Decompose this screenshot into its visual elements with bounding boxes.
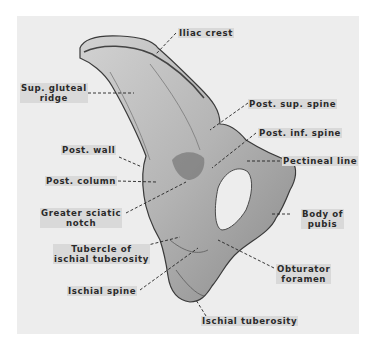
- label-post-wall: Post. wall: [61, 145, 116, 155]
- label-post-inf-spine: Post. inf. spine: [258, 128, 342, 138]
- label-sup-gluteal-ridge: Sup. gluteal ridge: [20, 83, 88, 103]
- label-ischial-spine: Ischial spine: [67, 286, 137, 296]
- label-tubercle-line2: ischial tuberosity: [54, 254, 149, 264]
- label-tubercle-of-ischial-tuberosity: Tubercle of ischial tuberosity: [53, 244, 150, 264]
- label-pectineal-line: Pectineal line: [282, 156, 358, 166]
- label-obturator-foramen-line2: foramen: [277, 274, 330, 284]
- label-obturator-foramen: Obturator foramen: [276, 264, 331, 284]
- label-body-of-pubis: Body of pubis: [301, 209, 344, 229]
- label-greater-sciatic-notch-line1: Greater sciatic: [41, 208, 121, 218]
- label-sup-gluteal-ridge-line2: ridge: [21, 93, 87, 103]
- label-greater-sciatic-notch-line2: notch: [41, 218, 121, 228]
- label-greater-sciatic-notch: Greater sciatic notch: [40, 208, 122, 228]
- label-tubercle-line1: Tubercle of: [54, 244, 149, 254]
- label-post-column: Post. column: [45, 176, 117, 186]
- label-iliac-crest: Iliac crest: [178, 28, 234, 38]
- label-ischial-tuberosity: Ischial tuberosity: [201, 316, 298, 326]
- label-body-of-pubis-line1: Body of: [302, 209, 343, 219]
- label-sup-gluteal-ridge-line1: Sup. gluteal: [21, 83, 87, 93]
- label-obturator-foramen-line1: Obturator: [277, 264, 330, 274]
- label-body-of-pubis-line2: pubis: [302, 219, 343, 229]
- label-post-sup-spine: Post. sup. spine: [248, 99, 337, 109]
